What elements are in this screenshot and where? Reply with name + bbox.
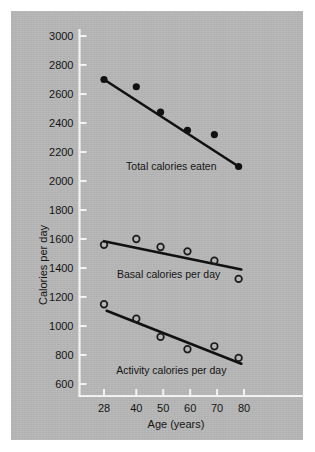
x-axis-title: Age (years) [148,418,205,430]
y-tick-label: 800 [55,349,73,361]
y-tick-label: 600 [55,378,73,390]
data-point [157,334,164,341]
data-points [100,76,242,361]
data-point [133,83,140,90]
y-tick-label: 2200 [49,146,73,158]
y-tick-label: 1400 [49,262,73,274]
data-point [184,127,191,134]
y-tick-label: 1800 [49,204,73,216]
trend-line-activity-calories-per-day [107,311,242,364]
series-annotations: Total calories eatenBasal calories per d… [116,160,227,375]
y-tick-label: 1000 [49,320,73,332]
data-point [235,276,242,283]
y-tick-label: 2000 [49,175,73,187]
data-point [211,131,218,138]
x-axis-tick-labels: 284050607080 [98,402,250,414]
trend-lines [104,80,241,364]
data-point [133,236,140,243]
data-point [235,355,242,362]
y-tick-label: 2600 [49,88,73,100]
figure-container: 6008001000120014001600180020002200240026… [0,0,315,452]
y-tick-label: 2800 [49,59,73,71]
x-tick-label: 80 [238,402,250,414]
data-point [101,301,108,308]
x-tick-label: 50 [157,402,169,414]
trend-line-basal-calories-per-day [104,241,241,269]
data-point [157,244,164,251]
y-axis-title: Calories per day [37,224,49,305]
x-tick-label: 28 [98,402,110,414]
data-point [184,248,191,255]
data-point [211,343,218,350]
y-tick-label: 2400 [49,117,73,129]
y-axis-tick-labels: 6008001000120014001600180020002200240026… [49,30,73,390]
y-tick-label: 1200 [49,291,73,303]
data-point [235,163,242,170]
data-point [184,346,191,353]
series-annotation: Basal calories per day [117,268,221,280]
series-annotation: Activity calories per day [116,364,227,376]
y-tick-label: 3000 [49,30,73,42]
trend-line-total-calories-eaten [104,80,239,167]
x-tick-label: 60 [184,402,196,414]
series-annotation: Total calories eaten [126,160,217,172]
data-point [100,76,107,83]
calorie-scatter-chart: 6008001000120014001600180020002200240026… [0,0,315,452]
x-tick-label: 70 [211,402,223,414]
data-point [157,109,164,116]
y-tick-label: 1600 [49,233,73,245]
x-tick-label: 40 [130,402,142,414]
